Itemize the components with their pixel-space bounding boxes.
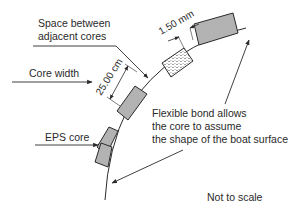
dimension-gap-ext1: [178, 36, 184, 48]
not-to-scale-label: Not to scale: [207, 191, 262, 203]
core-width-label: Core width: [29, 67, 79, 79]
core-block-light: [162, 48, 193, 77]
flexible-bond-label-line3: the shape of the boat surface: [152, 133, 288, 145]
core-block-middle: [117, 86, 147, 120]
flexible-bond-label-line1: Flexible bond allows: [152, 107, 247, 119]
dimension-width-ext2: [107, 97, 120, 106]
flexible-bond-arrow-top: [225, 40, 249, 104]
dimension-gap-arrow-left: [168, 37, 179, 41]
flexible-bond-label-line2: the core to assume: [152, 120, 241, 132]
space-between-label-line2: adjacent cores: [38, 30, 106, 42]
core-block-top: [194, 13, 238, 45]
core-layout-diagram: 25.00 cm 1.50 mm Space between adjacent …: [0, 0, 299, 208]
dimension-gap-ext2: [190, 28, 193, 40]
dimension-gap-label: 1.50 mm: [157, 8, 196, 37]
flexible-bond-arrow-bottom: [112, 150, 183, 183]
space-between-label-line1: Space between: [38, 17, 110, 29]
eps-core-label: EPS core: [45, 131, 89, 143]
dimension-width-label: 25.00 cm: [93, 56, 124, 97]
